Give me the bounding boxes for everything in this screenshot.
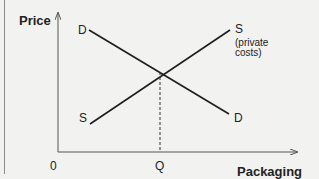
origin-label: 0 xyxy=(50,159,57,173)
x-axis-label: Packaging xyxy=(237,164,302,179)
demand-label-bottom: D xyxy=(234,111,243,125)
supply-label-bottom: S xyxy=(79,111,87,125)
supply-demand-diagram: Price Packaging 0 Q D D S S (private cos… xyxy=(0,0,319,179)
supply-label-top: S xyxy=(235,22,243,36)
demand-label-top: D xyxy=(78,23,87,37)
supply-note-line2: costs) xyxy=(235,47,262,58)
y-axis-label: Price xyxy=(19,13,51,28)
quantity-q-label: Q xyxy=(155,159,164,173)
demand-curve xyxy=(89,30,229,114)
